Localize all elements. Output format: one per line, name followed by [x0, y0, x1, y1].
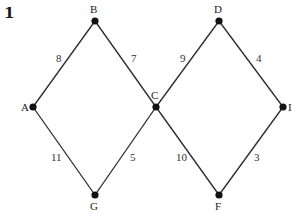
- edge-weight-c-f: 10: [176, 151, 188, 163]
- edge-f-i: [219, 107, 283, 195]
- node-label-i: I: [288, 101, 292, 113]
- edge-a-b: [33, 21, 95, 107]
- node-f-dot-icon: [215, 191, 222, 198]
- node-g-dot-icon: [91, 191, 98, 198]
- edge-weight-g-c: 5: [130, 151, 136, 163]
- weighted-graph-diagram: 1 8794115103 ABCDIGF: [0, 0, 292, 214]
- edge-weight-c-d: 9: [180, 52, 186, 64]
- edge-c-f: [156, 107, 219, 195]
- figure-number: 1: [4, 4, 14, 22]
- edge-weight-a-b: 8: [56, 52, 62, 64]
- nodes: [29, 17, 286, 198]
- edge-weight-b-c: 7: [131, 52, 137, 64]
- edge-a-g: [33, 107, 95, 195]
- node-label-d: D: [214, 3, 222, 15]
- node-d-dot-icon: [215, 17, 222, 24]
- edge-weight-a-g: 11: [51, 151, 62, 163]
- node-c-dot-icon: [152, 103, 159, 110]
- node-i-dot-icon: [279, 103, 286, 110]
- edge-weight-d-i: 4: [256, 52, 262, 64]
- node-label-a: A: [21, 101, 29, 113]
- node-b-dot-icon: [91, 17, 98, 24]
- node-label-g: G: [90, 200, 98, 212]
- edge-b-c: [95, 21, 156, 107]
- edge-d-i: [219, 21, 283, 107]
- edge-g-c: [95, 107, 156, 195]
- node-label-c: C: [151, 89, 158, 101]
- node-label-f: F: [215, 200, 221, 212]
- edge-c-d: [156, 21, 219, 107]
- edge-weight-f-i: 3: [254, 151, 260, 163]
- node-a-dot-icon: [29, 103, 36, 110]
- node-label-b: B: [90, 3, 97, 15]
